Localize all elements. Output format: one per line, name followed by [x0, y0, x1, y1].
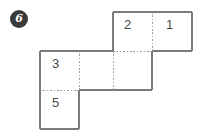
- diagram-canvas: 6: [0, 0, 203, 136]
- cell-label-3: 3: [52, 56, 59, 71]
- cell-label-5: 5: [52, 95, 59, 110]
- cell-label-2: 2: [124, 17, 131, 32]
- cell-label-1: 1: [166, 17, 173, 32]
